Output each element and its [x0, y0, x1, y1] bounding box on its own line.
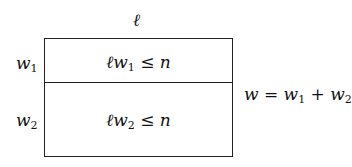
row-label-var: w [16, 110, 31, 130]
cell-top: ℓw1 ≤ n [45, 54, 232, 73]
cell-rel: ≤ n [135, 110, 171, 130]
cell-bottom: ℓw2 ≤ n [45, 112, 232, 131]
cell-expr: ℓw [106, 52, 128, 72]
cell-sub: 2 [128, 119, 135, 132]
eq-lhs: w = w [244, 84, 298, 104]
rectangle: ℓw1 ≤ n ℓw2 ≤ n [44, 38, 233, 157]
row-label-var: w [16, 53, 31, 73]
row-label-sub: 1 [31, 62, 38, 75]
cell-expr: ℓw [106, 110, 128, 130]
width-equation: w = w1 + w2 [244, 86, 352, 105]
cell-sub: 1 [128, 61, 135, 74]
row-label-w2: w2 [16, 112, 38, 131]
row-label-w1: w1 [16, 55, 38, 74]
eq-sub2: 2 [345, 93, 352, 106]
divider-line [45, 82, 232, 83]
eq-mid: + w [305, 84, 345, 104]
length-label: ℓ [133, 12, 140, 29]
row-label-sub: 2 [31, 119, 38, 132]
cell-rel: ≤ n [135, 52, 171, 72]
